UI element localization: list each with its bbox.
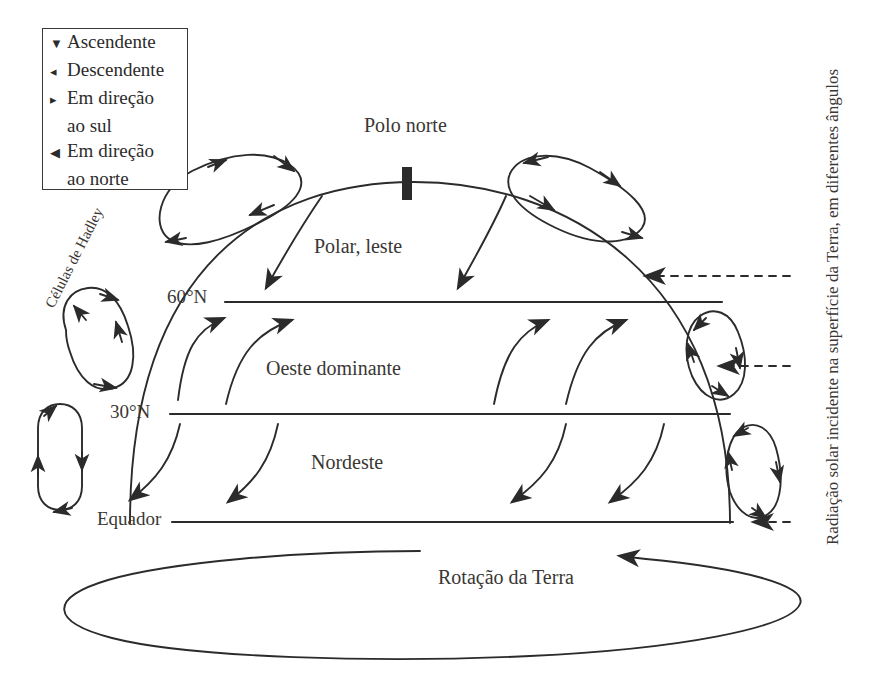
legend-label-cont: ao norte — [43, 166, 187, 191]
legend-item-em-direcao-ao-sul: ▸ Em direção — [43, 85, 187, 113]
label-nordeste: Nordeste — [311, 451, 383, 474]
westerly-arrow-1 — [178, 318, 224, 400]
cell-polar-right — [508, 156, 645, 242]
legend-label: Descendente — [67, 57, 164, 83]
westerly-arrow-3 — [494, 320, 548, 404]
westerly-arrow-4 — [566, 320, 626, 404]
legend-item-ascendente: ▼ Ascendente — [43, 29, 187, 57]
legend-item-em-direcao-ao-norte: ◀ Em direção — [43, 138, 187, 166]
legend-item-descendente: ◂ Descendente — [43, 57, 187, 85]
label-latitude-equador: Equador — [97, 508, 161, 530]
label-latitude-30n: 30°N — [110, 401, 150, 423]
label-polar-leste: Polar, leste — [314, 235, 402, 258]
legend-label: Em direção — [67, 85, 154, 111]
hemisphere-outline — [130, 182, 730, 523]
earth-rotation-path — [64, 551, 800, 659]
label-latitude-60n: 60°N — [167, 286, 207, 308]
trade-wind-arrow-1 — [130, 424, 180, 500]
polar-easterly-arrow-right — [458, 196, 506, 288]
label-rotacao-da-terra: Rotação da Terra — [438, 566, 574, 589]
label-polo-norte: Polo norte — [364, 114, 447, 137]
trade-wind-arrow-2 — [228, 424, 278, 502]
label-radiacao-solar: Radiação solar incidente na superfície d… — [822, 215, 844, 545]
legend-box: ▼ Ascendente ◂ Descendente ▸ Em direção … — [42, 28, 188, 190]
trade-wind-arrow-3 — [512, 424, 566, 502]
legend-label-cont: ao sul — [43, 113, 187, 138]
cell-hadley-right — [726, 425, 780, 518]
legend-label: Ascendente — [67, 29, 156, 55]
trade-wind-arrow-4 — [610, 424, 664, 502]
left-triangle-icon: ◀ — [50, 140, 67, 166]
cell-hadley-left — [63, 288, 133, 389]
north-pole-marker — [402, 167, 412, 200]
legend-label: Em direção — [67, 138, 154, 164]
right-triangle-icon: ▸ — [50, 87, 67, 113]
diagram-canvas: ▼ Ascendente ◂ Descendente ▸ Em direção … — [0, 0, 888, 689]
cell-ferrel-left — [38, 404, 82, 512]
up-left-triangle-icon: ◂ — [50, 59, 67, 85]
cell-ferrel-right — [686, 311, 745, 399]
down-triangle-icon: ▼ — [50, 31, 67, 57]
label-oeste-dominante: Oeste dominante — [266, 357, 401, 380]
